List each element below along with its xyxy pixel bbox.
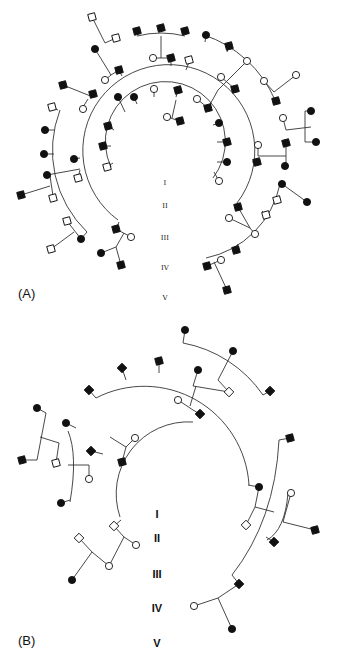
affected-female-icon: [181, 326, 188, 333]
generation-label: IV: [152, 602, 163, 614]
panel-a-generation-labels: IIIIIIIVV: [161, 179, 170, 302]
generation-label: III: [152, 568, 161, 580]
unaffected-male-icon: [48, 103, 57, 112]
panel-b-circular-pedigree: IIIIIIIVV (B): [18, 326, 320, 649]
affected-male-icon: [112, 225, 121, 234]
relationship-line: [190, 386, 196, 406]
affected-male-icon: [234, 203, 243, 212]
generation-label: II: [162, 202, 168, 210]
relationship-line: [21, 186, 50, 195]
relationship-line: [109, 537, 124, 566]
unaffected-male-icon: [74, 174, 83, 183]
relationship-line: [193, 386, 229, 392]
pedigree-figure: IIIIIIIVV (A) IIIIIIIVV (B): [0, 0, 337, 659]
unaffected-female-icon: [150, 85, 157, 92]
affected-female-icon: [307, 107, 314, 114]
affected-female-icon: [312, 138, 319, 145]
relationship-line: [172, 100, 176, 118]
affected-male-icon: [59, 81, 68, 90]
unaffected-female-icon: [279, 114, 286, 121]
affected-male-icon: [181, 27, 190, 36]
generation-label: I: [164, 179, 167, 187]
panel-a-individual-symbols: [17, 13, 320, 295]
unaffected-female-icon: [79, 105, 86, 112]
affected-male-icon: [89, 90, 98, 99]
affected-male-icon: [118, 458, 127, 467]
unaffected-female-icon: [105, 562, 112, 569]
relationship-line: [50, 176, 53, 196]
affected-male-icon: [234, 579, 244, 589]
relationship-line: [72, 552, 92, 580]
generation-label: III: [161, 234, 170, 242]
affected-male-icon: [155, 357, 164, 366]
unaffected-female-icon: [101, 76, 108, 83]
affected-female-icon: [223, 158, 230, 165]
generation-label: V: [153, 637, 161, 649]
affected-male-icon: [311, 526, 320, 535]
panel-a-generation-arcs: [52, 33, 280, 258]
affected-male-icon: [117, 363, 127, 373]
panel-b-label: (B): [18, 633, 35, 648]
affected-male-icon: [117, 261, 126, 270]
affected-female-icon: [130, 93, 137, 100]
affected-male-icon: [223, 286, 232, 295]
affected-male-icon: [86, 446, 96, 456]
unaffected-male-icon: [49, 194, 58, 203]
affected-male-icon: [204, 104, 213, 113]
affected-male-icon: [157, 24, 166, 33]
affected-male-icon: [99, 142, 108, 151]
affected-female-icon: [33, 404, 40, 411]
affected-female-icon: [114, 93, 121, 100]
affected-male-icon: [17, 191, 26, 200]
generation-label: V: [161, 294, 168, 302]
relationship-line: [283, 522, 315, 530]
generation-arc: [204, 35, 275, 100]
unaffected-female-icon: [131, 434, 138, 441]
unaffected-male-icon: [63, 217, 72, 226]
affected-male-icon: [203, 262, 212, 271]
affected-female-icon: [70, 155, 77, 162]
unaffected-female-icon: [251, 230, 258, 237]
unaffected-male-icon: [185, 56, 194, 65]
affected-male-icon: [282, 139, 291, 148]
panel-b-generation-labels: IIIIIIIVV: [152, 508, 163, 649]
generation-arc: [105, 82, 225, 178]
unaffected-male-icon: [241, 520, 251, 530]
unaffected-female-icon: [193, 95, 200, 102]
unaffected-female-icon: [127, 233, 134, 240]
generation-arc: [206, 184, 280, 258]
unaffected-female-icon: [292, 71, 299, 78]
unaffected-male-icon: [112, 34, 121, 43]
relationship-line: [283, 493, 291, 522]
unaffected-female-icon: [163, 113, 170, 120]
affected-male-icon: [167, 54, 176, 63]
unaffected-female-icon: [132, 541, 139, 548]
generation-label: II: [154, 532, 160, 544]
affected-male-icon: [115, 66, 124, 75]
affected-male-icon: [269, 537, 279, 547]
unaffected-female-icon: [215, 177, 222, 184]
affected-female-icon: [303, 198, 310, 205]
relationship-line: [274, 75, 296, 92]
unaffected-female-icon: [217, 73, 224, 80]
affected-male-icon: [133, 27, 142, 36]
affected-female-icon: [40, 150, 47, 157]
unaffected-male-icon: [52, 459, 61, 468]
affected-male-icon: [174, 86, 183, 95]
unaffected-male-icon: [47, 245, 56, 254]
unaffected-female-icon: [225, 214, 232, 221]
affected-male-icon: [18, 456, 27, 465]
unaffected-female-icon: [287, 489, 294, 496]
relationship-line: [116, 233, 124, 247]
affected-female-icon: [91, 45, 98, 52]
relationship-line: [40, 437, 59, 443]
affected-female-icon: [278, 180, 285, 187]
affected-female-icon: [41, 126, 48, 133]
unaffected-female-icon: [243, 57, 250, 64]
panel-a-label: (A): [18, 286, 35, 301]
relationship-line: [214, 262, 227, 290]
affected-male-icon: [265, 386, 275, 396]
affected-female-icon: [194, 366, 201, 373]
unaffected-male-icon: [273, 196, 282, 205]
affected-female-icon: [228, 625, 235, 632]
